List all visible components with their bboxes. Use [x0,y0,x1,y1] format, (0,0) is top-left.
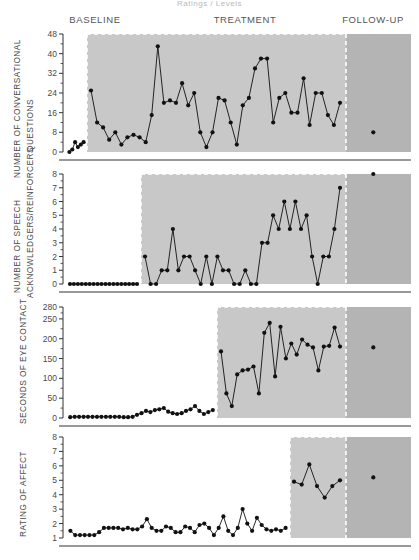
followup-point [371,475,375,479]
treatment-point [310,254,314,258]
treatment-point [338,345,342,349]
baseline-point [73,533,77,537]
treatment-point [311,345,315,349]
baseline-point [144,409,148,413]
baseline-point [284,526,288,530]
baseline-point [164,524,168,528]
treatment-point [216,96,220,100]
baseline-point [116,526,120,530]
baseline-point [68,282,72,286]
baseline-point [269,529,273,533]
baseline-point [206,410,210,414]
baseline-point [76,282,80,286]
baseline-point [135,282,139,286]
baseline-point [217,526,221,530]
baseline-point [107,526,111,530]
baseline-point [127,282,131,286]
baseline-point [139,411,143,415]
baseline-point [169,526,173,530]
baseline-point [92,282,96,286]
treatment-point [262,331,266,335]
treatment-point [107,138,111,142]
y-tick-label: 280 [43,302,57,312]
baseline-point [255,516,259,520]
baseline-point [193,404,197,408]
treatment-point [192,91,196,95]
treatment-point [327,344,331,348]
treatment-point [149,282,153,286]
treatment-point [174,101,178,105]
treatment-point [235,372,239,376]
treatment-point [283,91,287,95]
treatment-point [277,227,281,231]
figure-root: Ratings / Levels BASELINE TREATMENT FOLL… [0,0,419,560]
baseline-point [159,529,163,533]
y-tick-label: 2 [52,519,57,529]
followup-shade [346,437,411,538]
treatment-point [150,113,154,117]
treatment-point [259,57,263,61]
baseline-point [188,526,192,530]
treatment-point [323,496,327,500]
treatment-point [330,484,334,488]
y-tick-label: 3 [52,238,57,248]
treatment-point [199,282,203,286]
baseline-point [68,415,72,419]
treatment-point [154,282,158,286]
y-tick-label: 7 [52,446,57,456]
treatment-point [300,337,304,341]
treatment-point [338,478,342,482]
baseline-point [175,412,179,416]
baseline-point [171,411,175,415]
followup-point [371,130,375,134]
baseline-point [250,529,254,533]
treatment-point [293,199,297,203]
treatment-point [89,88,93,92]
baseline-point [83,533,87,537]
baseline-point [135,413,139,417]
y-tick-label: 0 [52,147,57,157]
treatment-point [176,268,180,272]
baseline-point [178,530,182,534]
y-tick-label: 48 [48,29,58,39]
baseline-point [99,282,103,286]
treatment-point [295,353,299,357]
treatment-point [266,241,270,245]
baseline-point [80,282,84,286]
baseline-point [73,140,77,144]
baseline-point [126,415,130,419]
baseline-point [245,522,249,526]
baseline-point [212,533,216,537]
figure-title: Ratings / Levels [0,0,419,8]
baseline-point [260,523,264,527]
treatment-point [320,91,324,95]
panel-rating-affect: RATING OF AFFECT 12345678 [0,431,419,555]
treatment-point [223,98,227,102]
baseline-point [135,527,139,531]
y-tick-label: 2 [52,252,57,262]
treatment-point [160,268,164,272]
baseline-point [78,533,82,537]
y-tick-label: 200 [43,334,57,344]
baseline-point [97,530,101,534]
treatment-point [295,111,299,115]
y-tick-label: 1 [52,533,57,543]
treatment-point [232,282,236,286]
baseline-point [279,529,283,533]
panel1-plot: 081624324048 [0,28,419,165]
baseline-point [226,529,230,533]
treatment-point [125,135,129,139]
y-tick-label: 50 [48,393,58,403]
baseline-point [107,282,111,286]
treatment-point [188,254,192,258]
panel4-plot: 12345678 [0,431,419,555]
baseline-point [274,527,278,531]
y-tick-label: 8 [52,432,57,442]
baseline-point [193,530,197,534]
baseline-point [131,415,135,419]
y-tick-label: 6 [52,461,57,471]
y-tick-label: 1 [52,265,57,275]
treatment-point [316,282,320,286]
treatment-point [315,484,319,488]
treatment-point [284,356,288,360]
